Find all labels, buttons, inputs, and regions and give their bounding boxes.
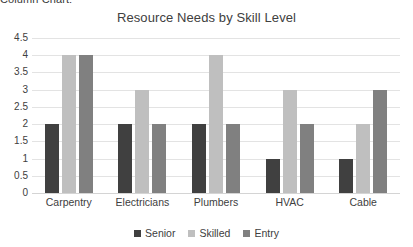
y-axis-tick-label: 3.5 bbox=[0, 67, 28, 77]
x-axis: CarpentryElectriciansPlumbersHVACCable bbox=[32, 196, 400, 212]
x-axis-category-label: Electricians bbox=[106, 196, 180, 208]
axis-baseline bbox=[32, 193, 400, 194]
x-axis-category-label: Carpentry bbox=[32, 196, 106, 208]
bar-group bbox=[253, 38, 327, 193]
bar-senior-electricians bbox=[118, 124, 132, 193]
bar-chart: Resource Needs by Skill Level 4.543.532.… bbox=[0, 0, 413, 247]
bar-skilled-cable bbox=[356, 124, 370, 193]
y-axis-tick-label: 2 bbox=[0, 119, 28, 129]
bars-layer bbox=[32, 38, 400, 193]
chart-title: Resource Needs by Skill Level bbox=[0, 10, 413, 25]
y-axis-tick-label: 4 bbox=[0, 50, 28, 60]
legend-label: Skilled bbox=[199, 228, 230, 239]
legend-swatch-icon bbox=[134, 230, 141, 237]
x-axis-category-label: Cable bbox=[326, 196, 400, 208]
bar-group bbox=[179, 38, 253, 193]
plot-area bbox=[32, 38, 400, 193]
bar-entry-hvac bbox=[300, 124, 314, 193]
bar-skilled-plumbers bbox=[209, 55, 223, 193]
y-axis: 4.543.532.521.510.50 bbox=[0, 38, 28, 193]
x-axis-category-label: Plumbers bbox=[179, 196, 253, 208]
bar-entry-carpentry bbox=[79, 55, 93, 193]
bar-group bbox=[106, 38, 180, 193]
chart-legend: SeniorSkilledEntry bbox=[0, 228, 413, 239]
legend-item-senior[interactable]: Senior bbox=[134, 228, 175, 239]
legend-swatch-icon bbox=[188, 230, 195, 237]
bar-skilled-hvac bbox=[283, 90, 297, 193]
y-axis-tick-label: 2.5 bbox=[0, 102, 28, 112]
bar-skilled-electricians bbox=[135, 90, 149, 193]
bar-senior-plumbers bbox=[192, 124, 206, 193]
legend-item-entry[interactable]: Entry bbox=[243, 228, 279, 239]
y-axis-tick-label: 0.5 bbox=[0, 171, 28, 181]
bar-entry-cable bbox=[373, 90, 387, 193]
bar-senior-hvac bbox=[266, 159, 280, 193]
legend-item-skilled[interactable]: Skilled bbox=[188, 228, 230, 239]
bar-senior-cable bbox=[339, 159, 353, 193]
y-axis-tick-label: 1 bbox=[0, 154, 28, 164]
bar-senior-carpentry bbox=[45, 124, 59, 193]
bar-group bbox=[326, 38, 400, 193]
x-axis-category-label: HVAC bbox=[253, 196, 327, 208]
y-axis-tick-label: 0 bbox=[0, 188, 28, 198]
legend-label: Entry bbox=[254, 228, 279, 239]
bar-group bbox=[32, 38, 106, 193]
y-axis-tick-label: 4.5 bbox=[0, 33, 28, 43]
legend-label: Senior bbox=[145, 228, 175, 239]
bar-entry-electricians bbox=[152, 124, 166, 193]
bar-entry-plumbers bbox=[226, 124, 240, 193]
y-axis-tick-label: 3 bbox=[0, 85, 28, 95]
y-axis-tick-label: 1.5 bbox=[0, 136, 28, 146]
legend-swatch-icon bbox=[243, 230, 250, 237]
bar-skilled-carpentry bbox=[62, 55, 76, 193]
